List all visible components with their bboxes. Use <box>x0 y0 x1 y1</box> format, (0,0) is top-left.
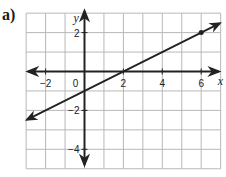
x-tick-label: 4 <box>160 78 166 89</box>
x-axis-name: x <box>217 74 224 88</box>
y-tick-label: −2 <box>68 105 80 116</box>
x-tick-label: 2 <box>121 78 127 89</box>
x-tick-label: 6 <box>198 78 204 89</box>
y-tick-label: 2 <box>74 28 80 39</box>
y-axis-name: y <box>73 11 80 25</box>
coordinate-graph: −202462−2−4xy <box>0 0 226 177</box>
x-tick-label: −2 <box>40 78 52 89</box>
marked-point <box>199 30 204 35</box>
x-tick-label: 0 <box>73 78 79 89</box>
y-tick-label: −4 <box>68 144 80 155</box>
